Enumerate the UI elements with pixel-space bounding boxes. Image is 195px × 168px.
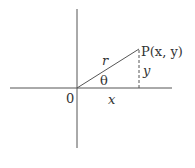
origin-label: 0 <box>66 91 74 106</box>
y-label: y <box>142 63 151 78</box>
point-label: P(x, y) <box>141 44 183 59</box>
x-label: x <box>108 92 116 107</box>
radius-label: r <box>102 53 109 68</box>
angle-label: θ <box>100 73 108 88</box>
polar-diagram: 0 P(x, y) r θ x y <box>0 0 195 168</box>
